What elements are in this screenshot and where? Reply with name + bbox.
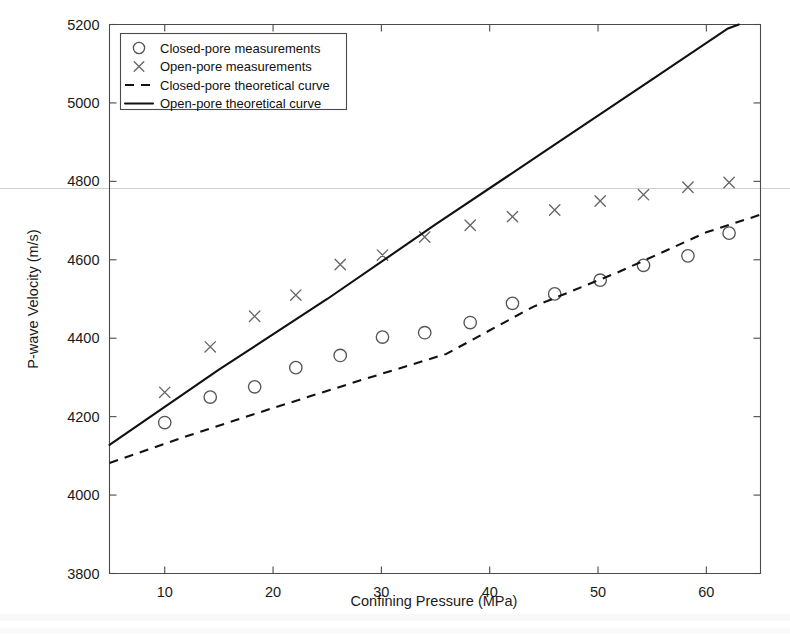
chart-legend: Closed-pore measurementsOpen-pore measur… (121, 34, 347, 112)
data-point-circle (723, 227, 735, 239)
series-markers (160, 177, 735, 397)
x-tick-label: 50 (590, 584, 606, 600)
pwave-velocity-scatter-chart: 38004000420044004600480050005200 1020304… (0, 0, 790, 642)
data-point-circle (159, 416, 171, 428)
data-point-circle (682, 250, 694, 262)
series-markers (159, 227, 736, 429)
legend-item-label: Closed-pore theoretical curve (160, 78, 330, 93)
y-tick-label: 5000 (67, 95, 99, 111)
series-curve (110, 215, 761, 463)
y-tick-label: 5200 (67, 17, 99, 33)
data-point-circle (290, 361, 302, 373)
y-tick-label: 3800 (67, 566, 99, 582)
y-tick-label: 4600 (67, 252, 99, 268)
data-point-circle (464, 316, 476, 328)
x-tick-label: 10 (157, 584, 173, 600)
scan-artifacts (0, 189, 790, 635)
data-point-circle (637, 259, 649, 271)
y-tick-label: 4200 (67, 409, 99, 425)
legend-item-label: Open-pore theoretical curve (160, 96, 321, 111)
data-point-circle (419, 327, 431, 339)
data-point-cross (249, 311, 259, 321)
x-axis-title: Confining Pressure (MPa) (351, 593, 518, 609)
data-point-cross (507, 211, 517, 221)
data-point-cross (724, 177, 734, 187)
y-axis-title: P-wave Velocity (m/s) (25, 229, 41, 368)
data-point-cross (205, 342, 215, 352)
data-point-cross (160, 387, 170, 397)
data-point-cross (638, 189, 648, 199)
legend-item-label: Open-pore measurements (160, 59, 312, 74)
y-tick-label: 4800 (67, 173, 99, 189)
data-point-cross (683, 182, 693, 192)
data-point-circle (376, 331, 388, 343)
data-point-circle (334, 349, 346, 361)
figure-container: 38004000420044004600480050005200 1020304… (0, 0, 790, 642)
data-point-circle (506, 297, 518, 309)
data-point-cross (549, 205, 559, 215)
x-tick-label: 20 (265, 584, 281, 600)
data-point-cross (595, 196, 605, 206)
legend-item-label: Closed-pore measurements (160, 41, 321, 56)
y-tick-label: 4400 (67, 330, 99, 346)
data-point-circle (204, 391, 216, 403)
data-point-circle (548, 288, 560, 300)
data-point-cross (465, 220, 475, 230)
data-point-cross (291, 290, 301, 300)
data-point-cross (335, 259, 345, 269)
y-tick-label: 4000 (67, 487, 99, 503)
data-point-circle (248, 381, 260, 393)
x-tick-label: 60 (698, 584, 714, 600)
